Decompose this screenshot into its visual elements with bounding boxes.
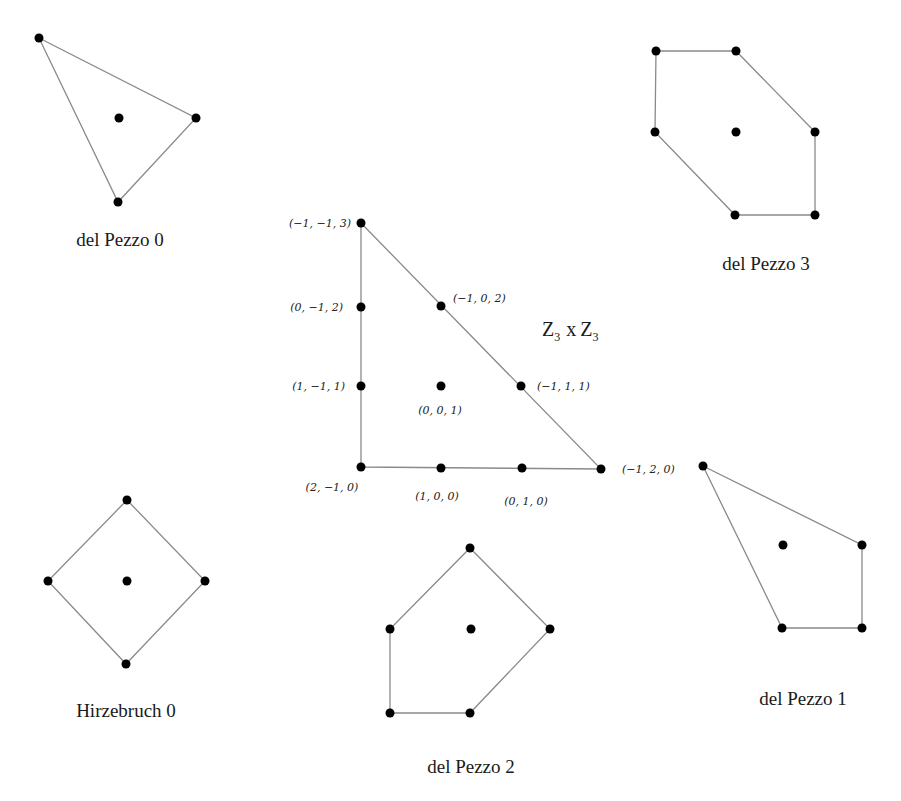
figure-svg: del Pezzo 0 del Pezzo 3 del Pezzo 1 del …	[0, 0, 901, 801]
del-pezzo-1-diagram: del Pezzo 1	[699, 462, 867, 710]
lattice-point	[811, 211, 820, 220]
coordinate-labels: (−1, −1, 3)(0, −1, 2)(−1, 0, 2)(1, −1, 1…	[289, 217, 675, 508]
lattice-point	[546, 625, 555, 634]
lattice-point	[732, 47, 741, 56]
lattice-point	[115, 114, 124, 123]
lattice-point	[731, 211, 740, 220]
del-pezzo-0-caption: del Pezzo 0	[76, 229, 164, 250]
lattice-point	[357, 219, 366, 228]
del-pezzo-3-diagram: del Pezzo 3	[651, 47, 820, 275]
lattice-points	[35, 34, 201, 207]
lattice-point	[201, 577, 210, 586]
z3-x-z3-label: Z3xZ3	[542, 318, 598, 344]
coordinate-label: (−1, 1, 1)	[537, 380, 590, 393]
lattice-point	[811, 128, 820, 137]
lattice-point	[518, 464, 527, 473]
z3-x-z3-diagram: (−1, −1, 3)(0, −1, 2)(−1, 0, 2)(1, −1, 1…	[289, 217, 675, 508]
lattice-point	[123, 577, 132, 586]
lattice-point	[114, 198, 123, 207]
lattice-point	[357, 382, 366, 391]
toric-diagrams-figure: del Pezzo 0 del Pezzo 3 del Pezzo 1 del …	[0, 0, 901, 801]
lattice-point	[652, 47, 661, 56]
lattice-point	[386, 709, 395, 718]
lattice-point	[597, 465, 606, 474]
lattice-point	[732, 128, 741, 137]
coordinate-label: (0, −1, 2)	[290, 301, 343, 314]
lattice-point	[778, 624, 787, 633]
coordinate-label: (1, 0, 0)	[415, 490, 459, 503]
lattice-point	[779, 541, 788, 550]
triangle-edges	[361, 223, 601, 469]
lattice-point	[437, 302, 446, 311]
lattice-point	[122, 660, 131, 669]
lattice-point	[437, 464, 446, 473]
lattice-points	[386, 544, 555, 718]
lattice-point	[467, 625, 476, 634]
lattice-point	[357, 463, 366, 472]
coordinate-label: (−1, 0, 2)	[453, 292, 506, 305]
coordinate-label: (0, 1, 0)	[504, 495, 548, 508]
lattice-point	[699, 462, 708, 471]
lattice-points	[44, 496, 210, 669]
coordinate-label: (−1, −1, 3)	[289, 217, 351, 230]
lattice-point	[44, 577, 53, 586]
hirzebruch-0-diagram: Hirzebruch 0	[44, 496, 210, 722]
del-pezzo-3-caption: del Pezzo 3	[722, 253, 810, 274]
del-pezzo-2-caption: del Pezzo 2	[427, 756, 515, 777]
lattice-point	[35, 34, 44, 43]
lattice-point	[858, 624, 867, 633]
coordinate-label: (−1, 2, 0)	[622, 463, 675, 476]
coordinate-label: (1, −1, 1)	[292, 380, 345, 393]
del-pezzo-2-diagram: del Pezzo 2	[386, 544, 555, 778]
lattice-point	[357, 303, 366, 312]
lattice-point	[858, 541, 867, 550]
lattice-points	[699, 462, 867, 633]
coordinate-label: (0, 0, 1)	[418, 404, 462, 417]
lattice-point	[466, 544, 475, 553]
lattice-point	[123, 496, 132, 505]
coordinate-label: (2, −1, 0)	[306, 481, 359, 494]
lattice-points	[651, 47, 820, 220]
del-pezzo-0-diagram: del Pezzo 0	[35, 34, 201, 251]
del-pezzo-1-caption: del Pezzo 1	[759, 688, 847, 709]
lattice-point	[517, 382, 526, 391]
hirzebruch-0-caption: Hirzebruch 0	[76, 700, 176, 721]
lattice-point	[466, 709, 475, 718]
lattice-point	[192, 114, 201, 123]
lattice-point	[437, 382, 446, 391]
lattice-point	[386, 625, 395, 634]
lattice-point	[651, 128, 660, 137]
